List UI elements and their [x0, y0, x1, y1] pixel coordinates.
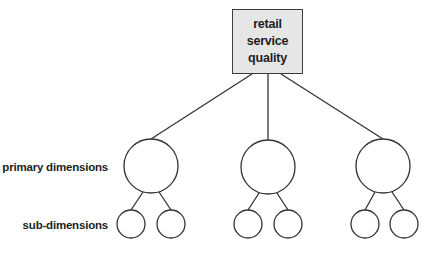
edge-primary-3-to-sub-1: [365, 192, 375, 210]
edge-primary-2-to-sub-1: [248, 193, 259, 210]
sub-dimensions-label: sub-dimensions: [23, 218, 108, 232]
sub-dimension-node-3a: [351, 210, 379, 238]
sub-dimension-node-3b: [390, 210, 418, 238]
root-node-retail-service-quality: retail service quality: [232, 9, 303, 74]
root-label-line-3: quality: [248, 50, 287, 67]
root-label-line-2: service: [247, 33, 289, 50]
edge-root-to-primary-1: [151, 74, 252, 139]
edge-primary-2-to-sub-2: [277, 193, 288, 210]
primary-dimensions-label: primary dimensions: [2, 160, 108, 174]
edge-primary-1-to-sub-1: [131, 192, 143, 210]
root-label-line-1: retail: [253, 16, 282, 33]
sub-dimension-node-2b: [274, 210, 302, 238]
primary-dimension-node-1: [124, 139, 178, 193]
sub-dimension-node-1a: [117, 210, 145, 238]
sub-dimension-node-1b: [157, 210, 185, 238]
primary-dimension-node-2: [241, 140, 295, 194]
diagram-canvas: retail service quality primary dimension…: [0, 0, 426, 262]
sub-dimension-node-2a: [234, 210, 262, 238]
edge-primary-1-to-sub-2: [159, 192, 171, 210]
edge-root-to-primary-3: [281, 74, 383, 139]
primary-dimension-node-3: [356, 139, 410, 193]
edge-primary-3-to-sub-2: [392, 192, 404, 210]
